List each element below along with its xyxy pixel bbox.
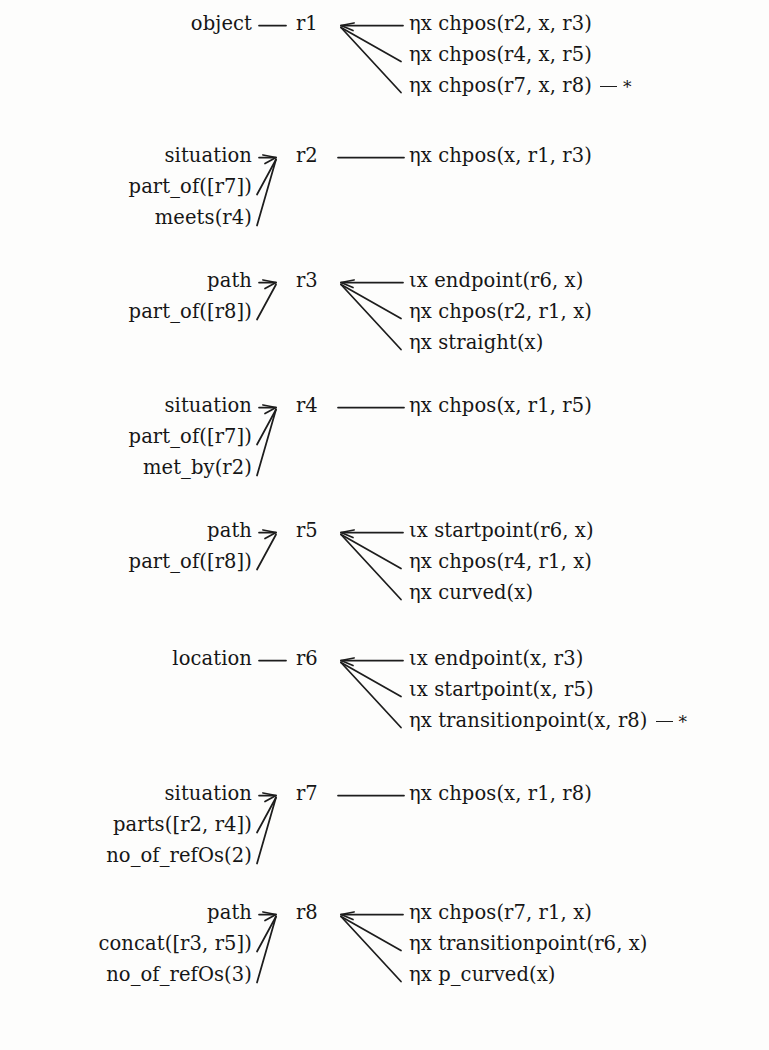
child-formula-text: ηx chpos(r4, x, r5) bbox=[409, 43, 592, 66]
right-connector bbox=[341, 285, 401, 350]
left-label: path bbox=[0, 265, 252, 296]
right-arrowhead bbox=[341, 912, 354, 920]
right-connector bbox=[341, 535, 401, 600]
right-arrowhead bbox=[341, 23, 354, 31]
left-label: path bbox=[0, 515, 252, 546]
referent-node-r1: r1 bbox=[296, 8, 318, 39]
child-formula: ηx chpos(x, r1, r5) bbox=[409, 390, 592, 421]
left-label: situation bbox=[0, 390, 252, 421]
child-formula-text: ηx chpos(r4, r1, x) bbox=[409, 550, 592, 573]
child-formula: ηx transitionpoint(r6, x) bbox=[409, 928, 648, 959]
right-connector bbox=[341, 535, 401, 569]
child-formula: ιx endpoint(x, r3) bbox=[409, 643, 687, 674]
child-formula: ηx chpos(x, r1, r3) bbox=[409, 140, 592, 171]
child-formula: ηx chpos(r7, x, r8)* bbox=[409, 70, 632, 103]
child-formula-text: ηx p_curved(x) bbox=[409, 963, 556, 986]
child-formulas-r8: ηx chpos(r7, r1, x)ηx transitionpoint(r6… bbox=[409, 897, 648, 990]
left-connector bbox=[257, 160, 276, 226]
left-connector bbox=[257, 535, 276, 570]
left-arrowhead bbox=[263, 912, 276, 921]
referent-node-r4: r4 bbox=[296, 390, 318, 421]
referent-node-r2: r2 bbox=[296, 140, 318, 171]
child-formula-text: ιx endpoint(r6, x) bbox=[409, 269, 583, 292]
left-label: no_of_refOs(2) bbox=[0, 840, 252, 871]
left-connector bbox=[257, 410, 276, 445]
child-formula: ηx chpos(r4, x, r5) bbox=[409, 39, 632, 70]
left-label: part_of([r7]) bbox=[0, 171, 252, 202]
right-arrowhead bbox=[341, 280, 354, 288]
left-arrowhead bbox=[263, 280, 276, 289]
right-connector bbox=[341, 28, 401, 93]
star-dash bbox=[656, 721, 673, 722]
left-label: concat([r3, r5]) bbox=[0, 928, 252, 959]
right-connector bbox=[341, 28, 401, 62]
left-label: meets(r4) bbox=[0, 202, 252, 233]
star-dash bbox=[600, 86, 617, 87]
left-labels-r7: situationparts([r2, r4])no_of_refOs(2) bbox=[0, 778, 252, 871]
left-label: part_of([r8]) bbox=[0, 546, 252, 577]
left-connector bbox=[257, 917, 276, 952]
right-arrowhead bbox=[341, 530, 354, 538]
child-formula: ηx chpos(x, r1, r8) bbox=[409, 778, 592, 809]
child-formula-text: ηx chpos(r7, r1, x) bbox=[409, 901, 592, 924]
child-formula: ηx chpos(r7, r1, x) bbox=[409, 897, 648, 928]
child-formula-text: ιx endpoint(x, r3) bbox=[409, 647, 583, 670]
left-label: part_of([r7]) bbox=[0, 421, 252, 452]
child-formula: ηx curved(x) bbox=[409, 577, 594, 608]
child-formula-text: ηx straight(x) bbox=[409, 331, 543, 354]
left-connector bbox=[257, 917, 276, 983]
child-formula-text: ηx chpos(r7, x, r8) bbox=[409, 74, 592, 97]
child-formulas-r5: ιx startpoint(r6, x)ηx chpos(r4, r1, x)η… bbox=[409, 515, 594, 608]
left-label: parts([r2, r4]) bbox=[0, 809, 252, 840]
child-formulas-r4: ηx chpos(x, r1, r5) bbox=[409, 390, 592, 421]
left-label: no_of_refOs(3) bbox=[0, 959, 252, 990]
left-label: path bbox=[0, 897, 252, 928]
left-label: situation bbox=[0, 140, 252, 171]
left-labels-r8: pathconcat([r3, r5])no_of_refOs(3) bbox=[0, 897, 252, 990]
left-labels-r3: pathpart_of([r8]) bbox=[0, 265, 252, 327]
left-labels-r5: pathpart_of([r8]) bbox=[0, 515, 252, 577]
child-formulas-r2: ηx chpos(x, r1, r3) bbox=[409, 140, 592, 171]
child-formula: ηx transitionpoint(x, r8)* bbox=[409, 705, 687, 738]
referent-node-r7: r7 bbox=[296, 778, 318, 809]
left-connector bbox=[257, 410, 276, 476]
referent-node-r6: r6 bbox=[296, 643, 318, 674]
star-marker: * bbox=[648, 705, 688, 738]
child-formulas-r3: ιx endpoint(r6, x)ηx chpos(r2, r1, x)ηx … bbox=[409, 265, 592, 358]
right-connector bbox=[341, 917, 401, 982]
left-connector bbox=[257, 285, 276, 320]
child-formula-text: ηx transitionpoint(r6, x) bbox=[409, 932, 648, 955]
diagram-canvas: objectr1ηx chpos(r2, x, r3)ηx chpos(r4, … bbox=[0, 0, 769, 1050]
right-connector bbox=[341, 663, 401, 697]
child-formula-text: ιx startpoint(x, r5) bbox=[409, 678, 594, 701]
child-formula: ιx endpoint(r6, x) bbox=[409, 265, 592, 296]
referent-node-r3: r3 bbox=[296, 265, 318, 296]
right-arrowhead bbox=[341, 658, 354, 666]
left-arrowhead bbox=[263, 405, 276, 414]
left-arrowhead bbox=[263, 155, 276, 164]
child-formulas-r6: ιx endpoint(x, r3)ιx startpoint(x, r5)ηx… bbox=[409, 643, 687, 738]
child-formula: ηx p_curved(x) bbox=[409, 959, 648, 990]
star-glyph: * bbox=[679, 712, 688, 732]
left-label: part_of([r8]) bbox=[0, 296, 252, 327]
left-connector bbox=[257, 798, 276, 864]
child-formula: ηx straight(x) bbox=[409, 327, 592, 358]
left-labels-r2: situationpart_of([r7])meets(r4) bbox=[0, 140, 252, 233]
child-formula-text: ηx chpos(r2, x, r3) bbox=[409, 12, 592, 35]
left-label: object bbox=[0, 8, 252, 39]
left-connector bbox=[257, 798, 276, 833]
left-labels-r1: object bbox=[0, 8, 252, 39]
left-labels-r4: situationpart_of([r7])met_by(r2) bbox=[0, 390, 252, 483]
referent-node-r8: r8 bbox=[296, 897, 318, 928]
child-formulas-r7: ηx chpos(x, r1, r8) bbox=[409, 778, 592, 809]
child-formulas-r1: ηx chpos(r2, x, r3)ηx chpos(r4, x, r5)ηx… bbox=[409, 8, 632, 103]
left-label: location bbox=[0, 643, 252, 674]
right-connector bbox=[341, 917, 401, 951]
right-connector bbox=[341, 663, 401, 728]
child-formula-text: ηx chpos(x, r1, r3) bbox=[409, 144, 592, 167]
left-label: situation bbox=[0, 778, 252, 809]
child-formula-text: ιx startpoint(r6, x) bbox=[409, 519, 594, 542]
child-formula-text: ηx chpos(r2, r1, x) bbox=[409, 300, 592, 323]
star-glyph: * bbox=[623, 77, 632, 97]
left-arrowhead bbox=[263, 793, 276, 802]
